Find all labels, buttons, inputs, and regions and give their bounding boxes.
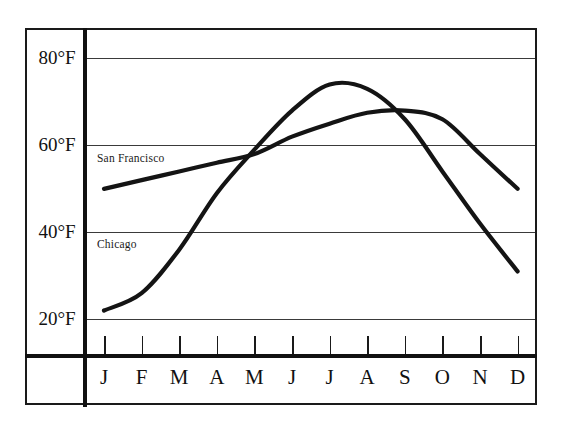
x-axis-month-label: J — [277, 364, 307, 391]
y-axis-tick-label: 40°F — [30, 222, 84, 241]
x-axis-month-label: N — [465, 364, 495, 391]
x-axis-month-label: M — [239, 364, 269, 391]
y-axis-line — [83, 28, 87, 407]
x-axis-tick — [142, 336, 144, 355]
gridline-60 — [85, 145, 535, 146]
x-axis-month-label: S — [390, 364, 420, 391]
x-axis-tick — [405, 336, 407, 355]
x-axis-tick — [217, 336, 219, 355]
x-axis-month-label: A — [202, 364, 232, 391]
x-axis-tick — [179, 336, 181, 355]
x-axis-month-label: M — [164, 364, 194, 391]
x-axis-tick — [104, 336, 106, 355]
x-axis-month-label: F — [127, 364, 157, 391]
y-axis-tick-label: 60°F — [30, 135, 84, 154]
series-label-chicago: Chicago — [97, 238, 137, 250]
x-axis-month-label: A — [352, 364, 382, 391]
x-axis-tick — [480, 336, 482, 355]
y-axis-tick-label: 80°F — [30, 48, 84, 67]
x-axis-month-label: J — [89, 364, 119, 391]
gridline-80 — [85, 58, 535, 59]
chart-outer-frame — [25, 28, 537, 405]
temperature-line-chart: 80°F60°F40°F20°F JFMAMJJASOND San Franci… — [0, 0, 563, 430]
y-axis-tick-label: 20°F — [30, 309, 84, 328]
x-axis-tick — [254, 336, 256, 355]
x-axis-tick — [292, 336, 294, 355]
x-axis-line — [25, 354, 537, 358]
x-axis-tick — [442, 336, 444, 355]
x-axis-month-label: O — [427, 364, 457, 391]
x-axis-tick — [518, 336, 520, 355]
x-axis-tick — [367, 336, 369, 355]
x-axis-month-label: J — [315, 364, 345, 391]
gridline-40 — [85, 232, 535, 233]
x-axis-month-label: D — [503, 364, 533, 391]
series-label-san-francisco: San Francisco — [97, 152, 164, 164]
gridline-20 — [85, 319, 535, 320]
x-axis-tick — [330, 336, 332, 355]
